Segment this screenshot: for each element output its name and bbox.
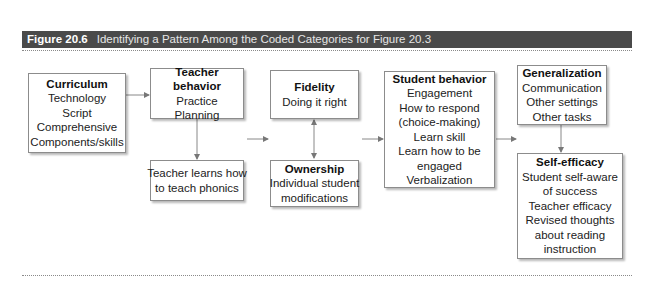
box-line: instruction	[544, 242, 596, 257]
box-line: Revised thoughts	[526, 213, 615, 228]
box-title: Curriculum	[46, 77, 107, 92]
box-title: Generalization	[522, 66, 601, 81]
box-line: of success	[543, 184, 597, 199]
teacher-behavior-box: Teacher behavior Practice Planning	[150, 68, 244, 119]
box-line: Comprehensive	[37, 120, 118, 135]
box-title: Ownership	[285, 162, 344, 177]
box-line: Other tasks	[533, 110, 592, 125]
ownership-box: Ownership Individual student modificatio…	[270, 160, 359, 207]
box-title: Fidelity	[294, 80, 334, 95]
box-line: Planning	[175, 108, 220, 123]
box-line: to teach phonics	[155, 181, 239, 196]
fidelity-box: Fidelity Doing it right	[270, 70, 359, 119]
box-line: Doing it right	[282, 95, 347, 110]
box-line: Technology	[48, 91, 106, 106]
teacher-learns-box: Teacher learns how to teach phonics	[150, 160, 244, 201]
box-line: Communication	[522, 81, 602, 96]
box-line: Verbalization	[407, 173, 473, 188]
box-line: Learn how to be	[398, 144, 480, 159]
box-line: Script	[62, 106, 91, 121]
self-efficacy-box: Self-efficacy Student self-aware of succ…	[517, 153, 623, 259]
box-line: Practice	[176, 94, 218, 109]
box-line: Engagement	[407, 86, 472, 101]
box-title: Teacher behavior	[151, 65, 243, 94]
curriculum-box: Curriculum Technology Script Comprehensi…	[28, 73, 126, 153]
box-title: Student behavior	[393, 72, 487, 87]
box-line: Teacher efficacy	[529, 199, 612, 214]
box-line: Student self-aware	[522, 170, 618, 185]
box-title: Self-efficacy	[536, 155, 604, 170]
generalization-box: Generalization Communication Other setti…	[517, 65, 607, 125]
box-line: Teacher learns how	[147, 166, 247, 181]
box-line: Individual student	[270, 176, 360, 191]
box-line: engaged	[417, 159, 462, 174]
box-line: Components/skills	[30, 135, 123, 150]
box-line: about reading	[535, 228, 605, 243]
box-line: How to respond	[399, 101, 480, 116]
student-behavior-box: Student behavior Engagement How to respo…	[384, 71, 495, 188]
box-line: (choice-making)	[399, 115, 481, 130]
box-line: Other settings	[526, 95, 598, 110]
box-line: modifications	[281, 191, 348, 206]
box-line: Learn skill	[414, 130, 466, 145]
